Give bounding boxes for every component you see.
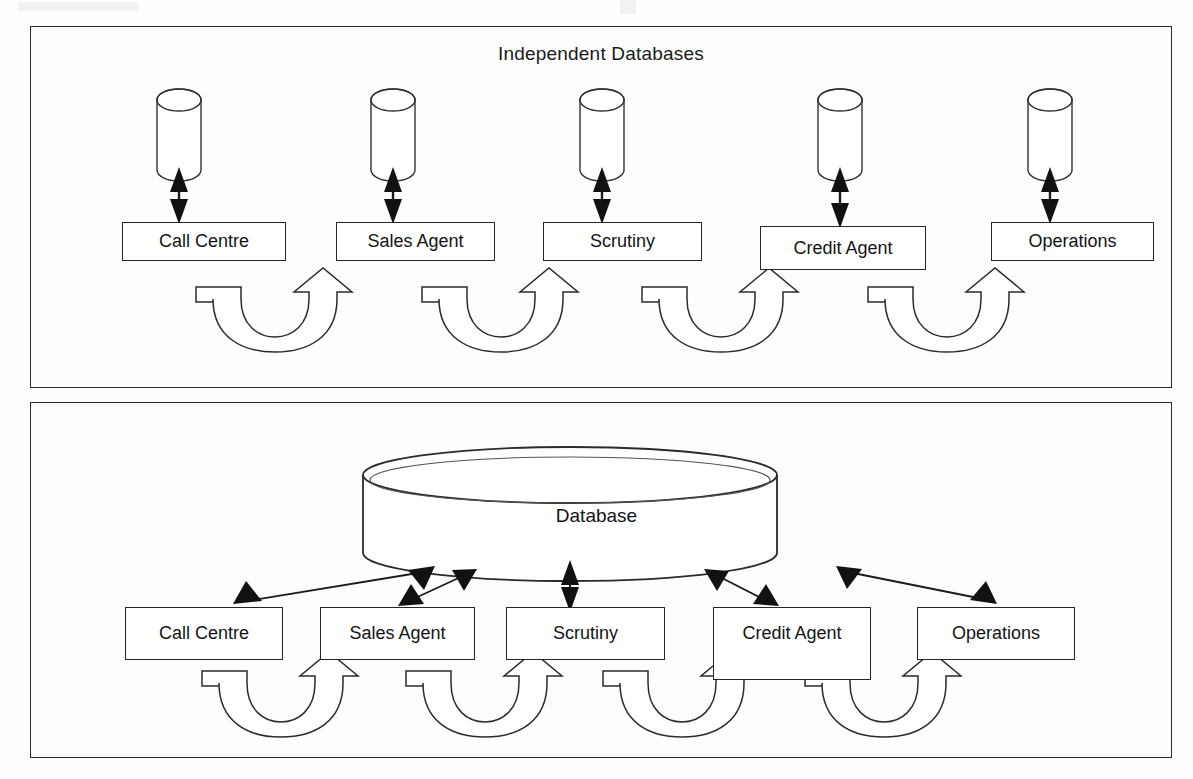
scan-artifact-top-2 <box>620 0 636 14</box>
central-database-label: Database <box>0 505 1193 527</box>
node-box-scrutiny-bottom[interactable]: Scrutiny <box>506 607 665 660</box>
panel-central-database <box>30 402 1172 758</box>
node-label: Scrutiny <box>553 623 618 644</box>
node-box-operations-bottom[interactable]: Operations <box>917 607 1075 660</box>
node-box-sales-agent-bottom[interactable]: Sales Agent <box>320 607 475 660</box>
node-label: Operations <box>1028 231 1116 252</box>
node-label: Scrutiny <box>590 231 655 252</box>
node-box-sales-agent-top[interactable]: Sales Agent <box>336 222 495 261</box>
node-label: Credit Agent <box>793 238 892 259</box>
node-box-credit-agent-bottom[interactable]: Credit Agent <box>713 607 871 680</box>
node-box-scrutiny-top[interactable]: Scrutiny <box>543 222 702 261</box>
node-box-operations-top[interactable]: Operations <box>991 222 1154 261</box>
node-box-call-centre-bottom[interactable]: Call Centre <box>125 607 283 660</box>
node-label: Operations <box>952 623 1040 644</box>
panel-independent-databases: Independent Databases <box>30 26 1172 388</box>
node-box-call-centre-top[interactable]: Call Centre <box>122 222 286 261</box>
node-label: Call Centre <box>159 623 249 644</box>
scan-artifact-top <box>18 2 138 11</box>
node-label: Sales Agent <box>349 623 445 644</box>
node-label: Sales Agent <box>367 231 463 252</box>
node-label: Credit Agent <box>742 623 841 644</box>
diagram-canvas: Independent Databases Call Centre Sales … <box>0 0 1193 779</box>
node-box-credit-agent-top[interactable]: Credit Agent <box>760 226 926 270</box>
node-label: Call Centre <box>159 231 249 252</box>
panel-title-independent-databases: Independent Databases <box>31 43 1171 65</box>
